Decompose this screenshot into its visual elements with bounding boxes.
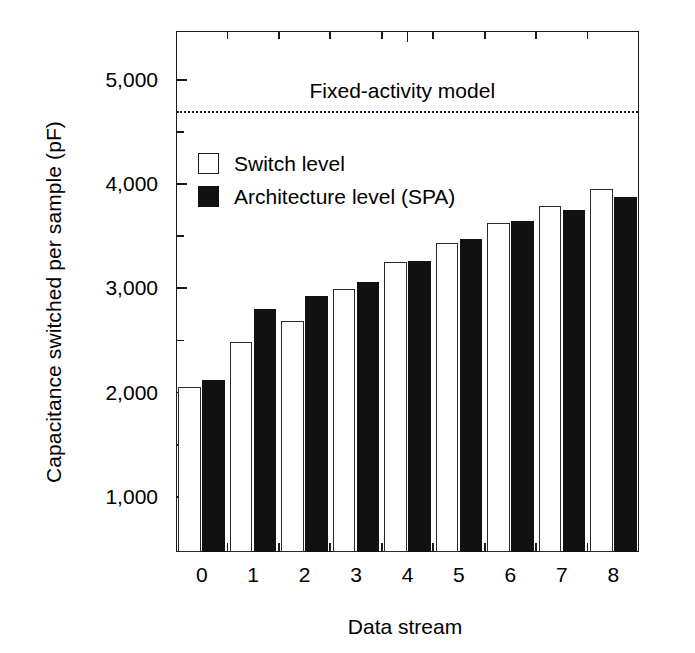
fixed-activity-reference-line [177,111,638,113]
fixed-activity-label: Fixed-activity model [310,79,496,103]
bar-switch-level-6 [487,223,510,552]
bar-switch-level-5 [436,243,459,552]
x-tick-bottom [432,543,434,552]
bar-architecture-level-3 [357,282,380,552]
bar-architecture-level-2 [305,296,328,552]
x-tick-label: 5 [439,563,479,587]
bar-switch-level-4 [384,262,407,552]
x-tick-label: 2 [285,563,325,587]
x-tick-bottom [329,543,331,552]
x-tick-bottom [381,543,383,552]
bar-architecture-level-1 [254,309,277,552]
bar-switch-level-7 [539,206,562,552]
x-tick-label: 0 [182,563,222,587]
y-axis-title: Capacitance switched per sample (pF) [42,42,66,562]
x-tick-bottom [587,543,589,552]
chart-legend: Switch level Architecture level (SPA) [198,147,455,213]
bar-architecture-level-7 [563,210,586,552]
bar-switch-level-2 [281,321,304,552]
x-tick-label: 1 [233,563,273,587]
legend-swatch-filled-square-icon [198,186,219,207]
bar-switch-level-1 [230,342,253,552]
legend-swatch-open-square-icon [198,153,219,174]
x-tick-bottom [278,543,280,552]
legend-label-architecture-level: Architecture level (SPA) [234,185,455,209]
x-tick-label: 4 [388,563,428,587]
x-tick-bottom [484,543,486,552]
y-tick-label: 3,000 [68,277,158,298]
bar-architecture-level-4 [408,261,431,552]
legend-item-switch-level: Switch level [198,147,455,180]
y-tick-label: 5,000 [68,69,158,90]
bar-architecture-level-8 [614,197,637,552]
bar-switch-level-0 [178,387,201,552]
y-tick-label: 2,000 [68,382,158,403]
x-tick-label: 7 [542,563,582,587]
bar-architecture-level-6 [511,221,534,552]
chart-figure: Capacitance switched per sample (pF) 1,0… [0,0,695,653]
bar-series-layer [176,31,639,552]
x-tick-label: 6 [490,563,530,587]
bar-switch-level-3 [333,289,356,552]
x-tick-label: 8 [593,563,633,587]
y-tick-label: 4,000 [68,173,158,194]
x-tick-bottom [227,543,229,552]
legend-label-switch-level: Switch level [234,152,345,176]
bar-architecture-level-0 [202,380,225,552]
legend-item-architecture-level: Architecture level (SPA) [198,180,455,213]
x-tick-bottom [535,543,537,552]
y-tick-label: 1,000 [68,486,158,507]
bar-switch-level-8 [590,189,613,552]
x-axis-title: Data stream [175,615,635,639]
x-tick-label: 3 [336,563,376,587]
bar-architecture-level-5 [460,239,483,552]
